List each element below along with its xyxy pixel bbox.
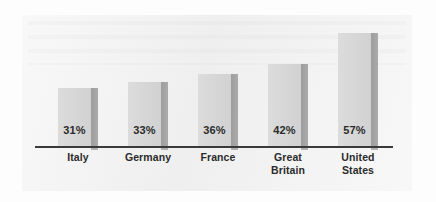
x-axis-line <box>35 146 393 148</box>
bar-value-great-britain: 42% <box>268 124 301 136</box>
bar-value-germany: 33% <box>128 124 161 136</box>
category-label-united-states-line2: States <box>320 164 396 177</box>
bar-value-italy: 31% <box>58 124 91 136</box>
category-label-italy-line1: Italy <box>67 151 89 163</box>
plot-area: 31% Italy 33% Germany 36% France 42% <box>0 0 436 202</box>
bar-germany[interactable]: 33% <box>128 82 168 146</box>
bar-value-united-states: 57% <box>338 124 371 136</box>
category-label-great-britain: Great Britain <box>250 151 326 176</box>
category-label-united-states: United States <box>320 151 396 176</box>
category-label-germany-line1: Germany <box>125 151 171 163</box>
category-label-great-britain-line2: Britain <box>250 164 326 177</box>
category-label-italy: Italy <box>40 151 116 164</box>
bar-value-france: 36% <box>198 124 231 136</box>
bar-edge-united-states <box>371 33 378 146</box>
chart-figure: 31% Italy 33% Germany 36% France 42% <box>0 0 436 202</box>
bar-edge-italy <box>91 88 98 146</box>
bar-edge-great-britain <box>301 64 308 146</box>
category-label-united-states-line1: United <box>341 151 374 163</box>
category-label-france: France <box>180 151 256 164</box>
bar-edge-france <box>231 74 238 146</box>
category-label-germany: Germany <box>110 151 186 164</box>
bar-italy[interactable]: 31% <box>58 88 98 146</box>
bar-france[interactable]: 36% <box>198 74 238 146</box>
bar-united-states[interactable]: 57% <box>338 33 378 146</box>
category-label-great-britain-line1: Great <box>274 151 302 163</box>
bar-edge-germany <box>161 82 168 146</box>
category-label-france-line1: France <box>200 151 235 163</box>
bar-great-britain[interactable]: 42% <box>268 64 308 146</box>
